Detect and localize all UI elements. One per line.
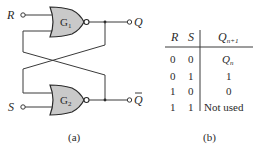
output-terminal-qbar bbox=[127, 98, 131, 102]
cell-s: 0 bbox=[188, 85, 194, 97]
caption-b: (b) bbox=[203, 131, 216, 144]
header-s: S bbox=[188, 30, 194, 44]
input-label-s: S bbox=[8, 100, 14, 114]
inverter-bubble-g1 bbox=[84, 20, 89, 25]
output-terminal-q bbox=[127, 20, 131, 24]
output-label-qbar: Q bbox=[134, 93, 143, 107]
cell-r: 0 bbox=[170, 53, 176, 65]
cell-s: 1 bbox=[188, 101, 194, 113]
table-row: 0 1 1 bbox=[170, 70, 232, 82]
caption-a: (a) bbox=[68, 131, 81, 144]
header-q-next: Qn+1 bbox=[218, 30, 238, 45]
junction-dot-qbar bbox=[104, 99, 107, 102]
input-label-r: R bbox=[6, 8, 15, 22]
cell-r: 0 bbox=[170, 70, 176, 82]
table-row: 0 0 Qn bbox=[170, 53, 234, 67]
cell-s: 1 bbox=[188, 70, 194, 82]
table-row: 1 0 0 bbox=[170, 85, 232, 97]
input-terminal-s bbox=[21, 105, 25, 109]
inverter-bubble-g2 bbox=[84, 98, 89, 103]
output-label-q: Q bbox=[134, 15, 143, 29]
cell-q-next: Not used bbox=[204, 101, 244, 113]
cell-q-next: Qn bbox=[222, 53, 234, 67]
cell-q-next: 1 bbox=[226, 70, 232, 82]
truth-table: R S Qn+1 0 0 Qn 0 1 1 1 0 0 1 1 Not used… bbox=[165, 30, 253, 144]
cell-r: 1 bbox=[170, 101, 176, 113]
cell-s: 0 bbox=[188, 53, 194, 65]
nor-sr-latch-circuit: R G1 Q G2 S Q (a) bbox=[6, 7, 143, 144]
header-r: R bbox=[170, 30, 179, 44]
sr-latch-figure: R G1 Q G2 S Q (a) R S Qn+1 bbox=[0, 0, 253, 155]
cell-r: 1 bbox=[170, 85, 176, 97]
cell-q-next: 0 bbox=[226, 85, 232, 97]
table-row: 1 1 Not used bbox=[170, 101, 244, 113]
input-terminal-r bbox=[21, 13, 25, 17]
